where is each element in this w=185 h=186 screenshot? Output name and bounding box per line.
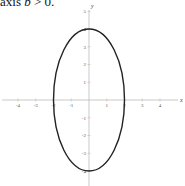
y-tick-label: 5 [84, 9, 87, 14]
x-axis-label: x [179, 97, 183, 103]
x-tick-label: 4 [159, 103, 162, 108]
x-tick-label: -1 [69, 103, 74, 108]
y-tick-label: -2 [82, 133, 87, 138]
y-axis-label: y [90, 3, 94, 9]
y-tick-label: 1 [84, 80, 87, 85]
ellipse-chart: -4-3-2-11234 54321-1-2-3-4-5 x y [0, 0, 185, 186]
y-tick-label: -3 [82, 151, 87, 156]
x-tick-label: -4 [16, 103, 21, 108]
y-tick-label: -1 [82, 116, 87, 121]
y-tick-label: 3 [84, 45, 87, 50]
x-tick-label: -3 [34, 103, 39, 108]
y-tick-label: 2 [84, 62, 87, 67]
x-tick-label: 1 [106, 103, 109, 108]
x-tick-label: 3 [141, 103, 144, 108]
